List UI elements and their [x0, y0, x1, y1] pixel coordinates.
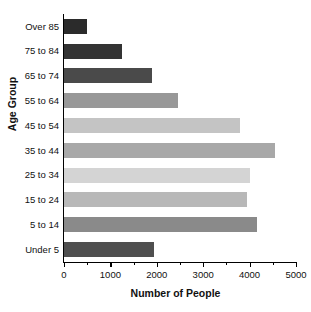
bar-row: Over 85 [64, 14, 87, 39]
x-axis-title: Number of People [40, 287, 311, 299]
bar-row: 65 to 74 [64, 64, 152, 89]
x-tick-major [203, 262, 204, 267]
bar [64, 93, 178, 108]
y-axis-title: Age Group [6, 56, 18, 152]
x-tick-label: 5000 [285, 269, 306, 280]
x-tick-minor [134, 262, 135, 265]
bar-row: 15 to 24 [64, 188, 247, 213]
bar-row: 35 to 44 [64, 138, 275, 163]
x-tick-label: 3000 [193, 269, 214, 280]
bar [64, 44, 122, 59]
x-tick-minor [87, 262, 88, 265]
category-label: 15 to 24 [25, 195, 59, 205]
x-tick-minor [226, 262, 227, 265]
category-label: 35 to 44 [25, 146, 59, 156]
chart-title [0, 0, 311, 3]
x-tick-label: 4000 [239, 269, 260, 280]
category-label: 55 to 64 [25, 96, 59, 106]
x-tick-minor [180, 262, 181, 265]
x-tick-major [64, 262, 65, 267]
x-tick-label: 2000 [146, 269, 167, 280]
bar-row: 55 to 64 [64, 88, 178, 113]
bar [64, 68, 152, 83]
plot-area: Over 8575 to 8465 to 7455 to 6445 to 543… [64, 14, 296, 262]
bar [64, 242, 154, 257]
category-label: 25 to 34 [25, 170, 59, 180]
x-tick-minor [273, 262, 274, 265]
category-label: 65 to 74 [25, 71, 59, 81]
category-label: 75 to 84 [25, 46, 59, 56]
bar-row: 75 to 84 [64, 39, 122, 64]
bar [64, 143, 275, 158]
bar [64, 118, 240, 133]
x-tick-major [296, 262, 297, 267]
bar-row: 5 to 14 [64, 212, 257, 237]
x-tick-major [110, 262, 111, 267]
bar-row: 25 to 34 [64, 163, 250, 188]
bar [64, 192, 247, 207]
bar [64, 19, 87, 34]
bar-chart: Age Group Over 8575 to 8465 to 7455 to 6… [0, 0, 311, 312]
bar-row: Under 5 [64, 237, 154, 262]
bar [64, 217, 257, 232]
x-tick-major [157, 262, 158, 267]
x-tick-label: 0 [61, 269, 66, 280]
category-label: Over 85 [25, 22, 59, 32]
x-tick-label: 1000 [100, 269, 121, 280]
category-label: 5 to 14 [30, 220, 59, 230]
x-tick-major [250, 262, 251, 267]
bar-row: 45 to 54 [64, 113, 240, 138]
category-label: 45 to 54 [25, 121, 59, 131]
bar [64, 168, 250, 183]
category-label: Under 5 [25, 245, 59, 255]
